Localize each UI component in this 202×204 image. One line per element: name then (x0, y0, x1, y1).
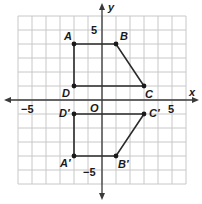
y-axis-up-arrow-icon (99, 3, 105, 10)
y-tick-neg5: −5 (83, 166, 96, 178)
x-axis-left-arrow-icon (4, 97, 11, 103)
point-a-prime (72, 154, 77, 159)
coordinate-plane: x y O −5 5 5 −5 ABCDA′B′C′D′ (0, 0, 202, 204)
point-a (72, 42, 77, 47)
x-tick-neg5: −5 (21, 103, 34, 115)
point-c-prime (142, 112, 147, 117)
point-label-d: D (62, 87, 70, 99)
y-axis-down-arrow-icon (99, 193, 105, 200)
y-axis-label: y (107, 1, 115, 13)
y-tick-pos5: 5 (91, 24, 97, 36)
point-label-b: B (120, 30, 128, 42)
point-label-a-prime: A′ (59, 157, 72, 169)
point-d (72, 84, 77, 89)
x-axis-label: x (188, 86, 196, 98)
point-label-b-prime: B′ (118, 158, 130, 170)
quadrilateral-abcd-prime (74, 114, 144, 156)
point-label-d-prime: D′ (59, 107, 71, 119)
point-d-prime (72, 112, 77, 117)
quadrilateral-abcd (74, 44, 144, 86)
x-tick-pos5: 5 (168, 103, 174, 115)
point-b (114, 42, 119, 47)
origin-label: O (90, 102, 99, 114)
point-label-c: C (145, 88, 154, 100)
point-label-a: A (63, 30, 72, 42)
point-label-c-prime: C′ (149, 107, 161, 119)
